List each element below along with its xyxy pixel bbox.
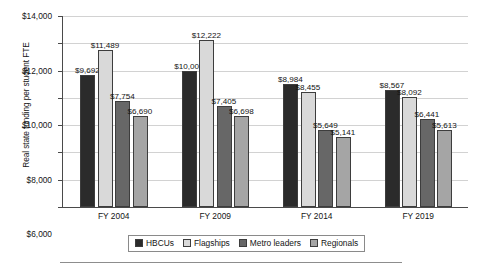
bar[interactable]: $8,567 (385, 90, 400, 207)
x-category-label: FY 2009 (199, 211, 231, 221)
x-category-label: FY 2004 (98, 211, 130, 221)
bar[interactable]: $7,754 (115, 101, 130, 207)
legend-label: Flagships (194, 238, 230, 248)
bar-group: $10,000$12,222$7,405$6,698FY 2009 (165, 16, 267, 207)
bar[interactable]: $5,613 (437, 130, 452, 207)
bar-group: $8,567$8,092$6,441$5,613FY 2019 (368, 16, 470, 207)
bar-value-label: $5,141 (331, 128, 356, 137)
plot-area: $0$2,000$4,000$6,000$8,000$10,000$12,000… (62, 16, 468, 208)
bar[interactable]: $6,441 (420, 119, 435, 207)
bar[interactable]: $6,690 (133, 116, 148, 207)
bar[interactable]: $8,984 (283, 84, 298, 207)
bar-chart-figure: Real state funding per student FTE $0$2,… (0, 0, 480, 270)
x-category-label: FY 2019 (402, 211, 434, 221)
bar-value-label: $6,690 (128, 107, 153, 116)
bar-value-label: $11,489 (91, 41, 120, 50)
bar[interactable]: $11,489 (98, 50, 113, 207)
bar[interactable]: $5,649 (318, 130, 333, 207)
y-tick-label: $14,000 (22, 11, 52, 21)
x-category-label: FY 2014 (301, 211, 333, 221)
legend-item[interactable]: Flagships (183, 238, 230, 248)
y-tick-label: $10,000 (22, 120, 52, 130)
bar-value-label: $6,698 (229, 107, 254, 116)
bar-value-label: $8,092 (397, 88, 422, 97)
bar-value-label: $12,222 (192, 31, 221, 40)
bar-value-label: $7,405 (212, 97, 237, 106)
legend-swatch-icon (135, 239, 143, 247)
bars-layer: $9,692$11,489$7,754$6,690FY 2004$10,000$… (63, 16, 468, 207)
legend-swatch-icon (183, 239, 191, 247)
bar[interactable]: $12,222 (199, 40, 214, 207)
legend-label: Metro leaders (250, 238, 301, 248)
footer-rule (60, 262, 402, 263)
y-tick-label: $6,000 (27, 229, 52, 239)
bar-value-label: $9,692 (75, 66, 100, 75)
legend-label: HBCUs (146, 238, 174, 248)
bar-value-label: $8,455 (296, 83, 321, 92)
y-tick-label: $12,000 (22, 66, 52, 76)
bar-group: $9,692$11,489$7,754$6,690FY 2004 (63, 16, 165, 207)
x-axis-line (62, 207, 468, 208)
bar-value-label: $5,613 (432, 121, 457, 130)
bar-value-label: $6,441 (415, 110, 440, 119)
bar[interactable]: $10,000 (182, 71, 197, 207)
legend-item[interactable]: Regionals (310, 238, 358, 248)
legend-item[interactable]: HBCUs (135, 238, 174, 248)
bar[interactable]: $8,455 (301, 92, 316, 207)
legend-label: Regionals (321, 238, 358, 248)
bar[interactable]: $9,692 (80, 75, 95, 207)
y-tick-label: $8,000 (27, 175, 52, 185)
bar-group: $8,984$8,455$5,649$5,141FY 2014 (266, 16, 368, 207)
bar[interactable]: $5,141 (336, 137, 351, 207)
chart-legend: HBCUsFlagshipsMetro leadersRegionals (128, 235, 365, 252)
bar-value-label: $7,754 (110, 92, 135, 101)
legend-item[interactable]: Metro leaders (239, 238, 301, 248)
bar[interactable]: $6,698 (234, 116, 249, 207)
legend-swatch-icon (310, 239, 318, 247)
legend-swatch-icon (239, 239, 247, 247)
bar[interactable]: $7,405 (217, 106, 232, 207)
